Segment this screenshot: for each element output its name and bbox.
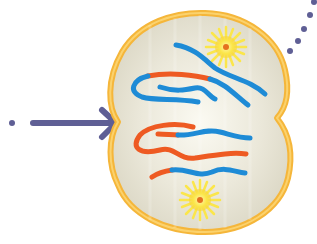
centrosome-top (206, 27, 246, 67)
centrosome-bottom (180, 180, 220, 220)
chromosome (158, 134, 178, 135)
cell-division-diagram: Dividing cell (cytokinesis) with chromos… (0, 0, 317, 244)
dot-trail (287, 0, 317, 54)
incoming-arrow (9, 110, 116, 137)
arrow-lead-dot (9, 120, 15, 126)
